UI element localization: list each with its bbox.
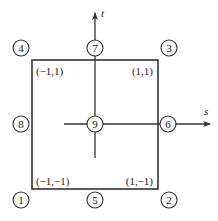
svg-text:4: 4 — [18, 42, 24, 54]
svg-text:6: 6 — [165, 118, 171, 130]
node-5: 5 — [87, 192, 103, 208]
coord-top-right: (1,1) — [132, 65, 153, 78]
node-7: 7 — [87, 40, 103, 56]
coord-top-left: (−1,1) — [36, 65, 64, 78]
svg-text:8: 8 — [18, 118, 24, 130]
node-1: 1 — [13, 192, 29, 208]
node-3: 3 — [161, 40, 177, 56]
node-4: 4 — [13, 40, 29, 56]
svg-text:1: 1 — [18, 194, 24, 206]
t-axis-label: t — [101, 7, 105, 19]
node-8: 8 — [13, 116, 29, 132]
svg-text:9: 9 — [92, 118, 98, 130]
s-axis-label: s — [204, 105, 208, 117]
node-2: 2 — [161, 192, 177, 208]
node-9: 9 — [87, 116, 103, 132]
svg-text:7: 7 — [92, 42, 98, 54]
nine-node-element-diagram: t s (−1,1) (1,1) (−1,−1) (1,−1) 4 7 3 8 … — [0, 0, 218, 221]
coord-bottom-left: (−1,−1) — [36, 175, 70, 188]
svg-text:5: 5 — [92, 194, 98, 206]
coord-bottom-right: (1,−1) — [126, 175, 154, 188]
svg-text:2: 2 — [166, 194, 172, 206]
svg-text:3: 3 — [166, 42, 172, 54]
node-6: 6 — [160, 116, 176, 132]
